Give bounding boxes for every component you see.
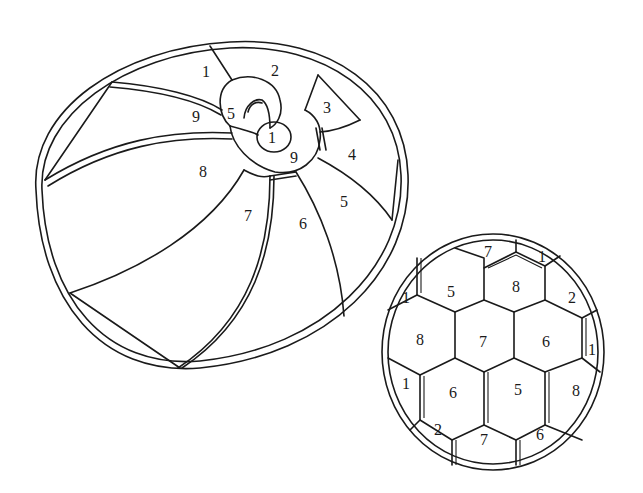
coloring-page-drawing [0,0,643,493]
soccer-ball-region-label: 7 [479,334,487,350]
beach-ball-region-label: 7 [244,208,252,224]
beach-ball-region-label: 9 [290,150,298,166]
soccer-ball-region-label: 8 [416,332,424,348]
beach-ball-region-label: 2 [271,63,279,79]
soccer-ball-region-label: 7 [480,432,488,448]
beach-ball-region-label: 9 [192,109,200,125]
beach-ball-region-label: 8 [199,164,207,180]
soccer-ball-region-label: 6 [542,334,550,350]
beach-ball-region-label: 5 [227,106,235,122]
soccer-ball-region-label: 6 [449,385,457,401]
beach-ball-region-label: 1 [268,130,276,146]
soccer-ball-region-label: 8 [512,279,520,295]
soccer-ball-region-label: 5 [447,284,455,300]
beach-ball-region-label: 1 [202,64,210,80]
beach-ball-region-label: 4 [348,147,356,163]
beach-ball-region-label: 6 [299,216,307,232]
soccer-ball-region-label: 6 [536,427,544,443]
soccer-ball-region-label: 1 [588,342,596,358]
soccer-ball-region-label: 7 [484,244,492,260]
soccer-ball-region-label: 1 [538,249,546,265]
soccer-ball-region-label: 2 [434,422,442,438]
soccer-ball-region-label: 1 [402,290,410,306]
soccer-ball-region-label: 5 [514,382,522,398]
beach-ball-region-label: 3 [323,100,331,116]
soccer-ball-region-label: 2 [568,290,576,306]
soccer-ball-region-label: 1 [402,376,410,392]
soccer-ball-region-label: 8 [572,383,580,399]
beach-ball-region-label: 5 [340,194,348,210]
